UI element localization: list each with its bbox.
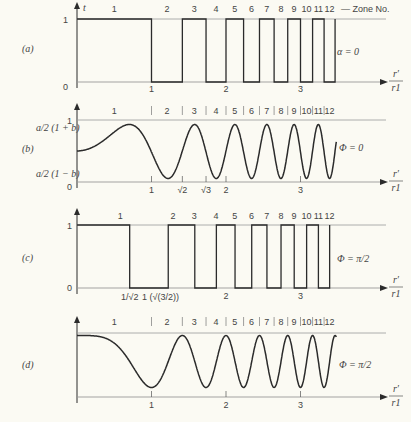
x-axis-label-den: r1 bbox=[392, 397, 401, 408]
zone-number-label: 6 bbox=[249, 106, 254, 116]
x-axis-arrow-icon bbox=[380, 285, 388, 291]
sinusoid-b bbox=[77, 125, 336, 179]
x-axis-arrow-icon bbox=[380, 79, 388, 85]
x-axis-label-num: r′ bbox=[393, 274, 400, 285]
y-tick-1: 1 bbox=[67, 221, 72, 231]
x-tick-label: 3 bbox=[298, 400, 303, 410]
zone-number-label: 8 bbox=[278, 4, 283, 14]
zone-number-label: 8 bbox=[278, 211, 283, 221]
x-axis-label-num: r′ bbox=[393, 383, 400, 394]
x-tick-label: 1 (√(3/2)) bbox=[142, 292, 179, 302]
zone-number-label: 2 bbox=[164, 106, 169, 116]
zone-plate-figure: r′r1(a)t10123456789101112— Zone No.α = 0… bbox=[0, 0, 411, 422]
zone-number-label: 7 bbox=[264, 4, 269, 14]
zone-number-label: 5 bbox=[232, 317, 237, 327]
x-axis-label-num: r′ bbox=[393, 168, 400, 179]
zone-number-label: 11 bbox=[314, 317, 323, 327]
x-tick-label: 1 bbox=[149, 185, 154, 195]
zone-number-label: 6 bbox=[249, 4, 254, 14]
x-axis-label-den: r1 bbox=[392, 288, 401, 299]
panel-label-d: (d) bbox=[22, 359, 34, 371]
param-phi-label: Φ = 0 bbox=[339, 142, 363, 153]
x-tick-label: 3 bbox=[298, 84, 303, 94]
zone-number-label: 12 bbox=[325, 317, 335, 327]
zone-number-label: 3 bbox=[192, 211, 197, 221]
y-label-lower: a/2 (1 − b) bbox=[36, 168, 80, 180]
x-tick-label: 1/√2 bbox=[121, 292, 138, 302]
y-axis-arrow-icon bbox=[74, 103, 80, 110]
zone-number-label: 3 bbox=[192, 317, 197, 327]
param-alpha-label: α = 0 bbox=[337, 46, 359, 57]
zone-number-label: 4 bbox=[214, 4, 219, 14]
zone-number-label: 12 bbox=[325, 4, 335, 14]
zone-number-label: 12 bbox=[325, 106, 335, 116]
zone-number-label: 10 bbox=[302, 106, 312, 116]
y-label-upper: a/2 (1 + b) bbox=[36, 122, 80, 134]
panel-label-a: (a) bbox=[22, 43, 34, 55]
x-tick-label: 2 bbox=[223, 185, 228, 195]
zone-number-label: 6 bbox=[249, 317, 254, 327]
sinusoid-d bbox=[77, 336, 336, 388]
square-wave-a bbox=[77, 19, 335, 82]
y-tick-1: 1 bbox=[63, 15, 68, 25]
zone-number-label: 6 bbox=[249, 211, 254, 221]
zone-number-label: 9 bbox=[292, 4, 297, 14]
x-axis-label-den: r1 bbox=[392, 82, 401, 93]
x-tick-label: 2 bbox=[223, 84, 228, 94]
panel-label-b: (b) bbox=[22, 143, 34, 155]
zone-number-label: 10 bbox=[302, 4, 312, 14]
y-tick-0: 0 bbox=[67, 283, 72, 293]
zone-number-label: 10 bbox=[302, 317, 312, 327]
zone-number-label: 8 bbox=[278, 106, 283, 116]
zone-number-legend: — Zone No. bbox=[341, 4, 390, 14]
zone-number-label: 1 bbox=[112, 106, 117, 116]
zone-number-label: 5 bbox=[232, 106, 237, 116]
x-tick-label: 2 bbox=[223, 291, 228, 301]
square-wave-c bbox=[77, 225, 330, 288]
x-axis-arrow-icon bbox=[380, 179, 388, 185]
zone-number-label: 9 bbox=[292, 106, 297, 116]
y-axis-arrow-icon bbox=[74, 2, 80, 9]
zone-number-label: 7 bbox=[264, 211, 269, 221]
x-axis-arrow-icon bbox=[380, 394, 388, 400]
zone-number-label: 11 bbox=[314, 4, 323, 14]
x-tick-label: √2 bbox=[177, 185, 187, 195]
zone-number-label: 1 bbox=[112, 317, 117, 327]
zone-number-label: 3 bbox=[192, 4, 197, 14]
panel-label-c: (c) bbox=[22, 252, 34, 264]
x-tick-label: 3 bbox=[298, 185, 303, 195]
y-axis-label-t: t bbox=[83, 2, 86, 13]
x-tick-label: 2 bbox=[223, 400, 228, 410]
y-axis-arrow-icon bbox=[74, 208, 80, 215]
zone-number-label: 9 bbox=[292, 317, 297, 327]
zone-number-label: 4 bbox=[214, 106, 219, 116]
zone-number-label: 5 bbox=[232, 4, 237, 14]
zone-number-label: 2 bbox=[164, 317, 169, 327]
x-tick-label: 1 bbox=[149, 400, 154, 410]
y-tick-0: 0 bbox=[67, 182, 72, 192]
zone-number-label: 7 bbox=[264, 317, 269, 327]
x-axis-label-den: r1 bbox=[392, 182, 401, 193]
x-axis-label-num: r′ bbox=[393, 68, 400, 79]
zone-number-label: 1 bbox=[118, 211, 123, 221]
zone-number-label: 1 bbox=[112, 4, 117, 14]
zone-number-label: 8 bbox=[278, 317, 283, 327]
zone-number-label: 2 bbox=[170, 211, 175, 221]
zone-number-label: 11 bbox=[314, 211, 323, 221]
zone-number-label: 9 bbox=[292, 211, 297, 221]
zone-number-label: 2 bbox=[164, 4, 169, 14]
x-tick-label: √3 bbox=[201, 185, 211, 195]
zone-number-label: 4 bbox=[214, 211, 219, 221]
zone-number-label: 10 bbox=[302, 211, 312, 221]
zone-number-label: 3 bbox=[192, 106, 197, 116]
param-phi-label: Φ = π/2 bbox=[339, 359, 371, 370]
zone-number-label: 5 bbox=[232, 211, 237, 221]
param-phi-label: Φ = π/2 bbox=[337, 253, 369, 264]
zone-number-label: 4 bbox=[214, 317, 219, 327]
zone-number-label: 7 bbox=[264, 106, 269, 116]
x-tick-label: 3 bbox=[298, 291, 303, 301]
x-tick-label: 1 bbox=[149, 84, 154, 94]
y-tick-0: 0 bbox=[63, 82, 68, 92]
zone-number-label: 11 bbox=[314, 106, 323, 116]
zone-number-label: 12 bbox=[325, 211, 335, 221]
